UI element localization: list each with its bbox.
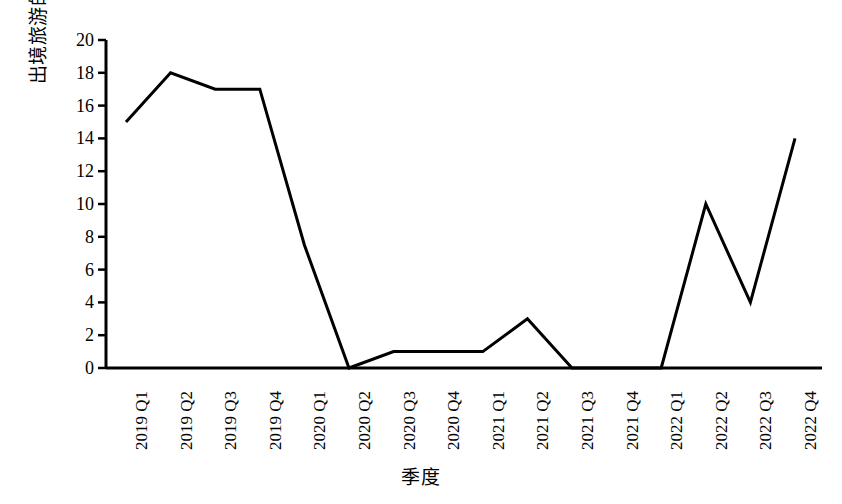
data-series-line [126,73,795,368]
axes [98,40,822,368]
x-axis-title: 季度 [0,462,842,489]
chart-container: 出境旅游的人数比例/% 02468101214161820 2019 Q1201… [0,0,842,504]
plot-area [0,0,842,504]
